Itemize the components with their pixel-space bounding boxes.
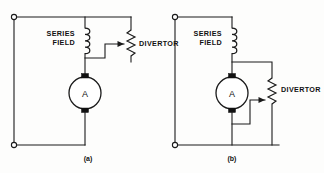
armature-label-b: A [229,89,235,99]
circuit-svg: A SERIES FIELD DIVERTOR (a) [0,0,324,173]
brush-top-b [229,74,236,79]
caption-a: (a) [84,155,93,163]
divertor-lead-top-b [232,62,272,78]
series-field-coil-b [232,28,237,54]
series-field-coil-a [85,28,90,54]
divertor-tap-arrow-a [118,41,125,47]
brush-top-a [82,74,89,79]
series-field-label-a-line1: SERIES [47,29,75,38]
series-field-label-b-line1: SERIES [194,29,222,38]
terminal-bottom-a [11,142,16,147]
terminal-top-a [11,14,16,19]
divertor-resistor-a [127,30,135,56]
series-field-label-a-line2: FIELD [52,38,75,47]
diagram-b: A SERIES FIELD DIVERTOR (b) [172,14,321,163]
divertor-label-a: DIVERTOR [139,39,179,48]
terminal-bottom-b [172,142,177,147]
divertor-resistor-b [268,78,276,104]
caption-b: (b) [228,155,237,163]
circuit-figure: A SERIES FIELD DIVERTOR (a) [0,0,324,173]
divertor-label-b: DIVERTOR [281,85,321,94]
divertor-tap-arrow-b [259,97,266,103]
diagram-a: A SERIES FIELD DIVERTOR (a) [11,14,179,163]
terminal-top-b [172,14,177,19]
armature-label-a: A [82,89,88,99]
series-field-label-b-line2: FIELD [199,38,222,47]
